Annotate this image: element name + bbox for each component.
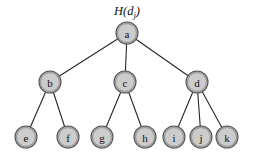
tree-node-f[interactable]: f (57, 126, 79, 148)
tree-node-e[interactable]: e (15, 126, 37, 148)
tree-node-b[interactable]: b (39, 71, 61, 93)
tree-node-a[interactable]: a (116, 22, 138, 44)
node-label-a: a (125, 28, 130, 40)
node-label-c: c (123, 77, 128, 89)
node-label-k: k (224, 132, 230, 144)
tree-diagram-svg: abcdefghijk H(dj) (0, 0, 257, 153)
tree-edge-a-d (127, 33, 197, 82)
node-label-f: f (66, 132, 70, 144)
tree-node-d[interactable]: d (186, 71, 208, 93)
tree-node-c[interactable]: c (114, 71, 136, 93)
tree-edge-a-b (50, 33, 127, 82)
tree-node-g[interactable]: g (91, 126, 113, 148)
node-label-b: b (47, 77, 53, 89)
node-label-e: e (24, 132, 29, 144)
tree-diagram-canvas: abcdefghijk H(dj) (0, 0, 257, 153)
tree-node-i[interactable]: i (163, 126, 185, 148)
tree-node-j[interactable]: j (190, 126, 212, 148)
tree-node-k[interactable]: k (216, 126, 238, 148)
root-caption-text: H(dj) (113, 4, 140, 20)
root-caption-group: H(dj) (113, 4, 140, 20)
node-label-h: h (142, 132, 148, 144)
node-label-g: g (99, 132, 105, 144)
node-label-j: j (198, 132, 202, 144)
tree-node-h[interactable]: h (134, 126, 156, 148)
node-label-d: d (194, 77, 200, 89)
node-label-i: i (172, 132, 175, 144)
nodes-group: abcdefghijk (15, 22, 238, 148)
